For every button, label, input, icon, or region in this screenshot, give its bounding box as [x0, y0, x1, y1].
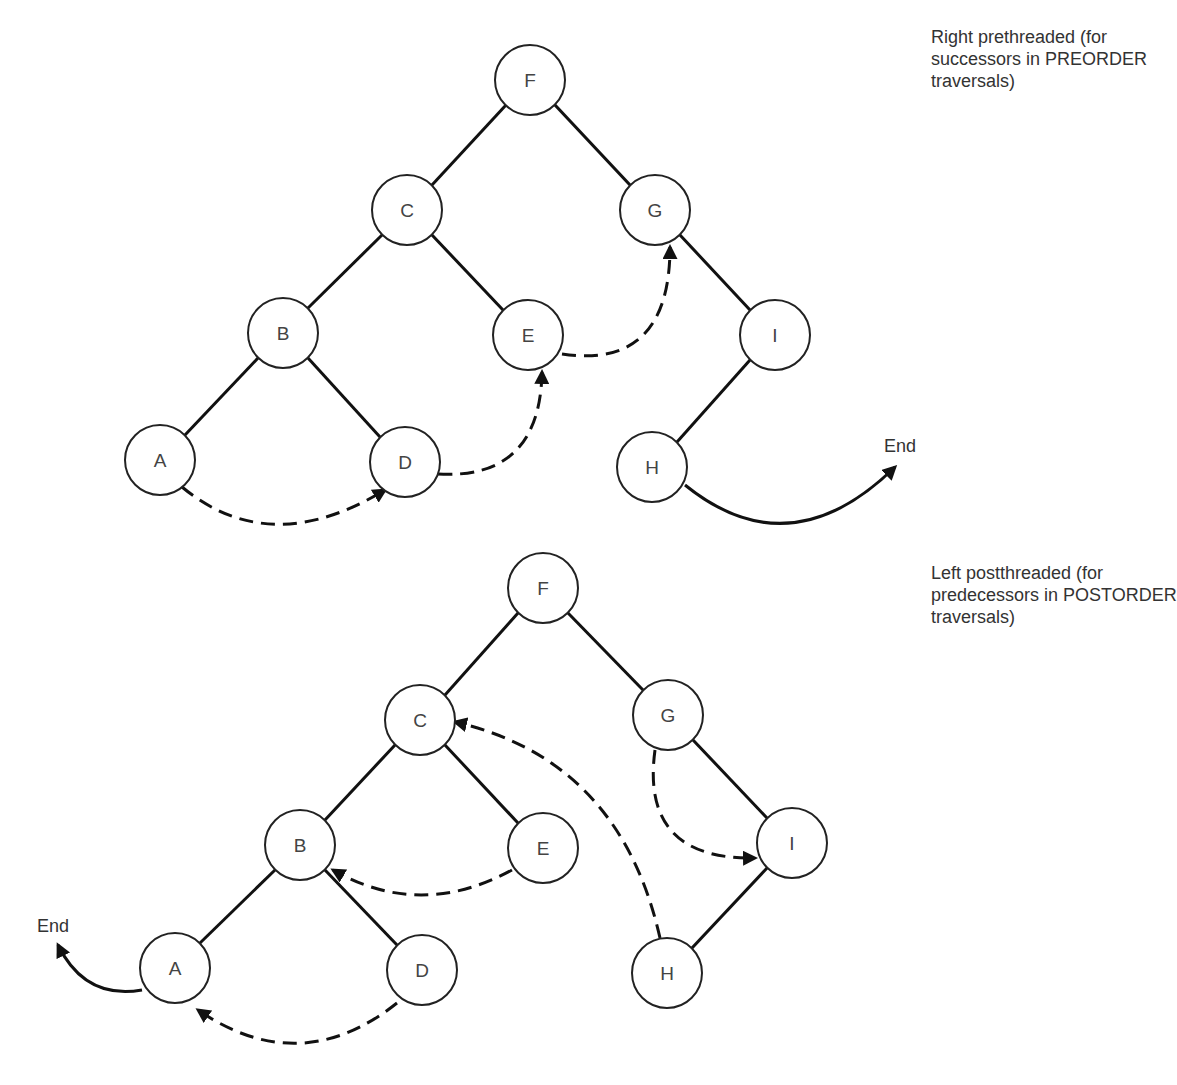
thread-E-to-G [562, 247, 670, 356]
edge-B-D [308, 358, 380, 437]
bottom-node-H: H [632, 938, 702, 1008]
svg-text:E: E [522, 325, 535, 346]
svg-text:D: D [398, 452, 412, 473]
bottom-node-B: B [265, 810, 335, 880]
svg-text:A: A [154, 450, 167, 471]
edge-G-I [680, 235, 750, 310]
top-node-C: C [372, 175, 442, 245]
top-node-E: E [493, 300, 563, 370]
bottom-node-G: G [633, 680, 703, 750]
svg-text:B: B [294, 835, 307, 856]
bottom-node-F: F [508, 553, 578, 623]
thread-H-to-end [685, 467, 895, 523]
top-tree-edges [185, 105, 750, 442]
svg-text:F: F [524, 70, 536, 91]
edge-B-D [325, 870, 397, 945]
bottom-tree: End F C G B E I A D H [37, 553, 827, 1043]
svg-text:B: B [277, 323, 290, 344]
bottom-end-label: End [37, 916, 69, 936]
bottom-node-C: C [385, 685, 455, 755]
edge-F-G [555, 105, 630, 185]
edge-I-H [677, 360, 750, 442]
svg-text:I: I [772, 325, 777, 346]
svg-text:A: A [169, 958, 182, 979]
top-node-D: D [370, 427, 440, 497]
edge-B-A [200, 870, 275, 943]
top-end-label: End [884, 436, 916, 456]
edge-C-E [445, 745, 518, 823]
top-node-I: I [740, 300, 810, 370]
edge-B-A [185, 358, 258, 435]
edge-F-C [445, 613, 518, 695]
svg-text:H: H [645, 457, 659, 478]
svg-text:C: C [400, 200, 414, 221]
edge-I-H [692, 868, 767, 948]
svg-text:E: E [537, 838, 550, 859]
bottom-node-A: A [140, 933, 210, 1003]
svg-text:D: D [415, 960, 429, 981]
top-node-G: G [620, 175, 690, 245]
top-node-B: B [248, 298, 318, 368]
svg-text:I: I [789, 833, 794, 854]
top-node-F: F [495, 45, 565, 115]
edge-F-C [432, 105, 506, 185]
svg-text:G: G [661, 705, 676, 726]
bottom-node-D: D [387, 935, 457, 1005]
svg-text:H: H [660, 963, 674, 984]
bottom-tree-edges [200, 613, 767, 948]
thread-D-to-E [438, 372, 542, 474]
edge-C-E [432, 235, 503, 310]
edge-G-I [693, 740, 767, 818]
thread-A-to-D [182, 487, 385, 524]
bottom-node-I: I [757, 808, 827, 878]
edge-F-G [568, 613, 643, 690]
svg-text:G: G [648, 200, 663, 221]
svg-text:F: F [537, 578, 549, 599]
thread-G-to-I [653, 750, 755, 858]
thread-D-to-A [198, 1003, 397, 1043]
top-tree: End F C G B E I A D H [125, 45, 916, 524]
bottom-node-E: E [508, 813, 578, 883]
top-tree-threads: End [182, 247, 916, 524]
thread-E-to-B [333, 870, 512, 895]
svg-text:C: C [413, 710, 427, 731]
top-node-H: H [617, 432, 687, 502]
edge-C-B [325, 745, 395, 820]
thread-A-to-end [58, 945, 142, 992]
top-node-A: A [125, 425, 195, 495]
edge-C-B [308, 235, 382, 308]
